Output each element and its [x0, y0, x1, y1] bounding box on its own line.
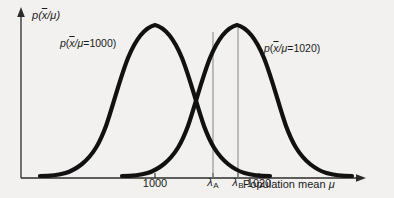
lambda-a-subscript: A: [213, 181, 218, 190]
x-tick-label-lambda-b: λB: [232, 176, 243, 190]
x-tick-label-1000: 1000: [143, 177, 167, 189]
statistics-distribution-figure: p(x/μ) p(x/μ=1000) p(x/μ=1020) 1000 λA λ…: [0, 0, 394, 198]
lambda-b-symbol: λ: [232, 176, 237, 188]
lambda-a-symbol: λ: [207, 176, 212, 188]
x-axis-label-symbol: μ: [329, 178, 335, 190]
x-axis-label: Population mean μ: [243, 178, 335, 190]
curve-label-1000: p(x/μ=1000): [60, 37, 116, 49]
y-axis: [17, 7, 25, 178]
x-axis-label-text: Population mean: [243, 178, 326, 190]
curve-label-1020: p(x/μ=1020): [264, 42, 320, 54]
x-tick-label-lambda-a: λA: [207, 176, 218, 190]
y-axis-label: p(x/μ): [32, 9, 60, 21]
chart-canvas: [0, 0, 394, 198]
